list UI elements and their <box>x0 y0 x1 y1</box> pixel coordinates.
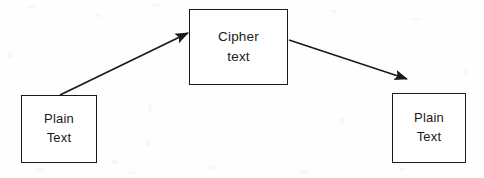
diagram-canvas: Plain Text Cipher text Plain Text <box>0 0 484 178</box>
node-ciphertext-label-line1: Cipher <box>218 27 259 47</box>
node-plaintext-source: Plain Text <box>21 95 97 163</box>
node-plaintext-result-label-line1: Plain <box>414 109 444 128</box>
decrypt-arrow <box>289 40 407 79</box>
node-ciphertext-label-line2: text <box>227 47 250 67</box>
node-plaintext-result: Plain Text <box>392 93 466 163</box>
node-ciphertext: Cipher text <box>189 9 288 85</box>
node-plaintext-source-label-line2: Text <box>47 129 72 148</box>
node-plaintext-source-label-line1: Plain <box>44 110 74 129</box>
encrypt-arrow <box>60 33 188 95</box>
node-plaintext-result-label-line2: Text <box>417 128 442 147</box>
